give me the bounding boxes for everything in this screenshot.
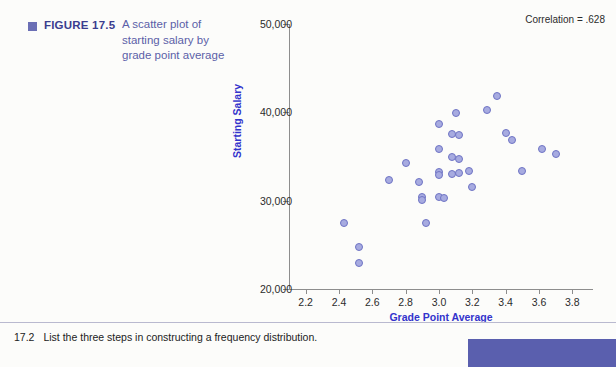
scatter-point [538,145,546,153]
x-tick [506,289,507,294]
footer-question-text: List the three steps in constructing a f… [43,331,317,343]
figure-caption-text: A scatter plot of starting salary by gra… [122,17,232,64]
scatter-point [435,171,443,179]
x-tick-label: 3.6 [532,296,547,308]
scatter-point [385,176,393,184]
x-tick-label: 3.8 [565,296,580,308]
scatter-point [402,159,410,167]
scatter-point [340,219,348,227]
footer-question-number: 17.2 [14,331,34,343]
footer-color-tab [468,339,616,367]
x-axis-line [289,289,593,290]
scatter-point [483,106,491,114]
x-tick [572,289,573,294]
scatter-point [355,243,363,251]
plot-area [289,24,589,289]
y-tick-label: 20,000 [260,283,292,295]
y-axis-title: Starting Salary [231,84,243,158]
scatter-chart: Correlation = .628 Starting Salary Grade… [237,8,609,308]
scatter-point [518,167,526,175]
scatter-point [440,194,448,202]
x-tick-label: 3.4 [498,296,513,308]
scatter-point [455,131,463,139]
scatter-point [415,178,423,186]
scatter-point [493,92,501,100]
x-tick [406,289,407,294]
x-tick [472,289,473,294]
y-tick-label: 50,000 [260,18,292,30]
x-tick-label: 3.0 [432,296,447,308]
figure-label: FIGURE 17.5 [44,19,115,31]
x-tick [339,289,340,294]
x-tick [372,289,373,294]
scatter-point [435,120,443,128]
scatter-point [455,155,463,163]
scatter-point [452,109,460,117]
y-tick-label: 40,000 [260,106,292,118]
x-tick-label: 2.2 [298,296,313,308]
scatter-point [502,129,510,137]
y-tick-label: 30,000 [260,195,292,207]
x-tick [439,289,440,294]
scatter-point [355,259,363,267]
scatter-point [465,167,473,175]
x-tick-label: 2.4 [332,296,347,308]
footer-question: 17.2 List the three steps in constructin… [14,331,317,343]
x-tick-label: 2.8 [398,296,413,308]
scatter-point [455,169,463,177]
scatter-point [508,136,516,144]
x-tick-label: 3.2 [465,296,480,308]
scatter-point [552,150,560,158]
page: FIGURE 17.5 A scatter plot of starting s… [0,0,616,367]
x-tick [306,289,307,294]
scatter-point [435,145,443,153]
x-tick [539,289,540,294]
footer-divider [0,322,616,323]
square-bullet-icon [28,22,37,31]
scatter-point [422,219,430,227]
x-tick-label: 2.6 [365,296,380,308]
scatter-point [418,196,426,204]
scatter-point [468,183,476,191]
